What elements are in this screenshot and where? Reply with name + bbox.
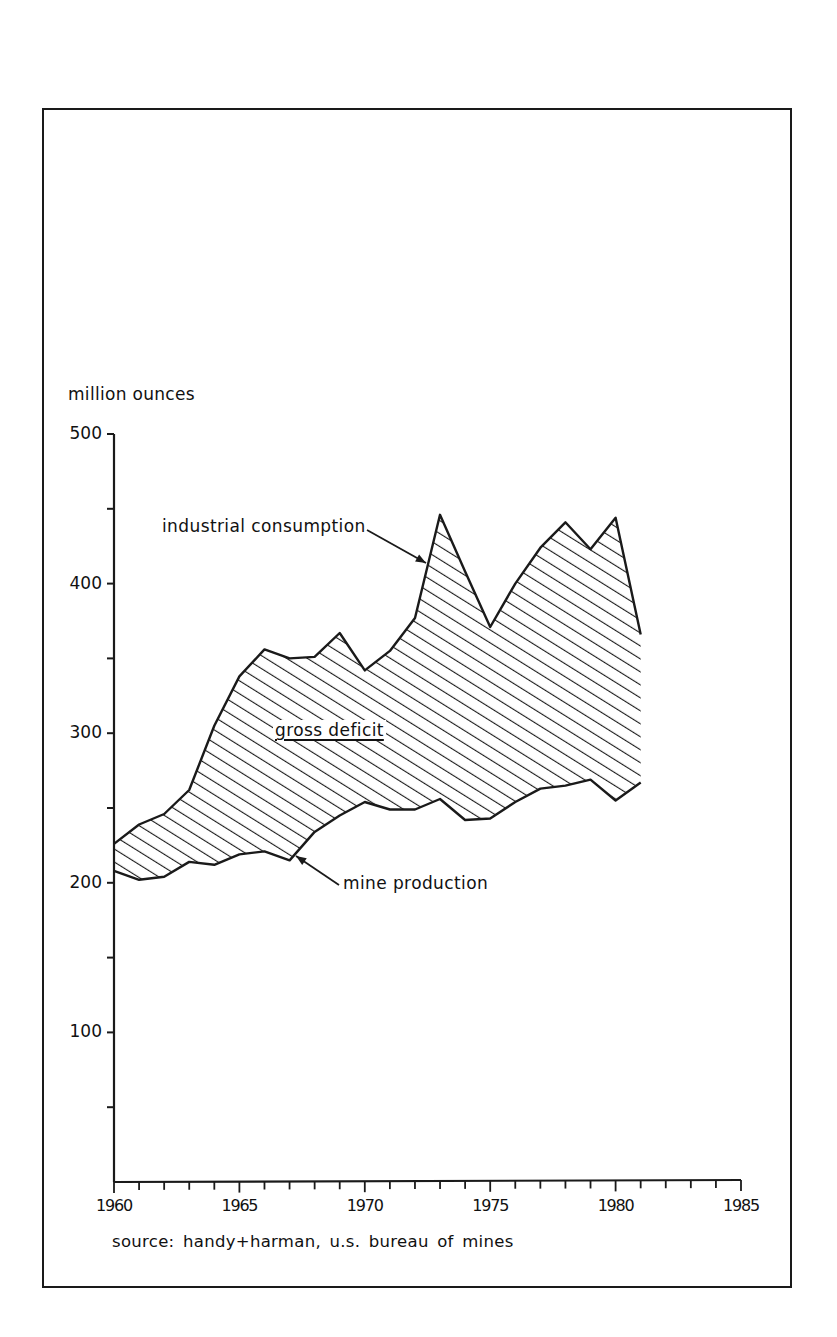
y-tick-label: 300 (58, 722, 102, 742)
gross-deficit-area (114, 515, 641, 880)
annotation-mine-production: mine production (343, 873, 488, 893)
arrowhead-icon (296, 856, 307, 865)
y-tick-label: 100 (58, 1021, 102, 1041)
y-tick-label: 200 (58, 872, 102, 892)
y-axis-title: million ounces (68, 384, 195, 404)
x-tick-label: 1975 (465, 1196, 515, 1215)
arrowhead-icon (415, 554, 426, 563)
x-tick-label: 1980 (591, 1196, 641, 1215)
chart-canvas (0, 0, 837, 1337)
y-tick-label: 400 (58, 573, 102, 593)
gross-deficit-fill (114, 515, 641, 880)
y-tick-label: 500 (58, 423, 102, 443)
x-tick-label: 1970 (340, 1196, 390, 1215)
source-note: source: handy+harman, u.s. bureau of min… (112, 1232, 514, 1251)
x-axis-line (114, 1180, 741, 1182)
x-tick-label: 1960 (89, 1196, 139, 1215)
x-tick-label: 1965 (214, 1196, 264, 1215)
annotation-industrial-consumption: industrial consumption (162, 516, 366, 536)
x-tick-label: 1985 (716, 1196, 766, 1215)
annotation-gross-deficit: gross deficit (273, 720, 386, 740)
